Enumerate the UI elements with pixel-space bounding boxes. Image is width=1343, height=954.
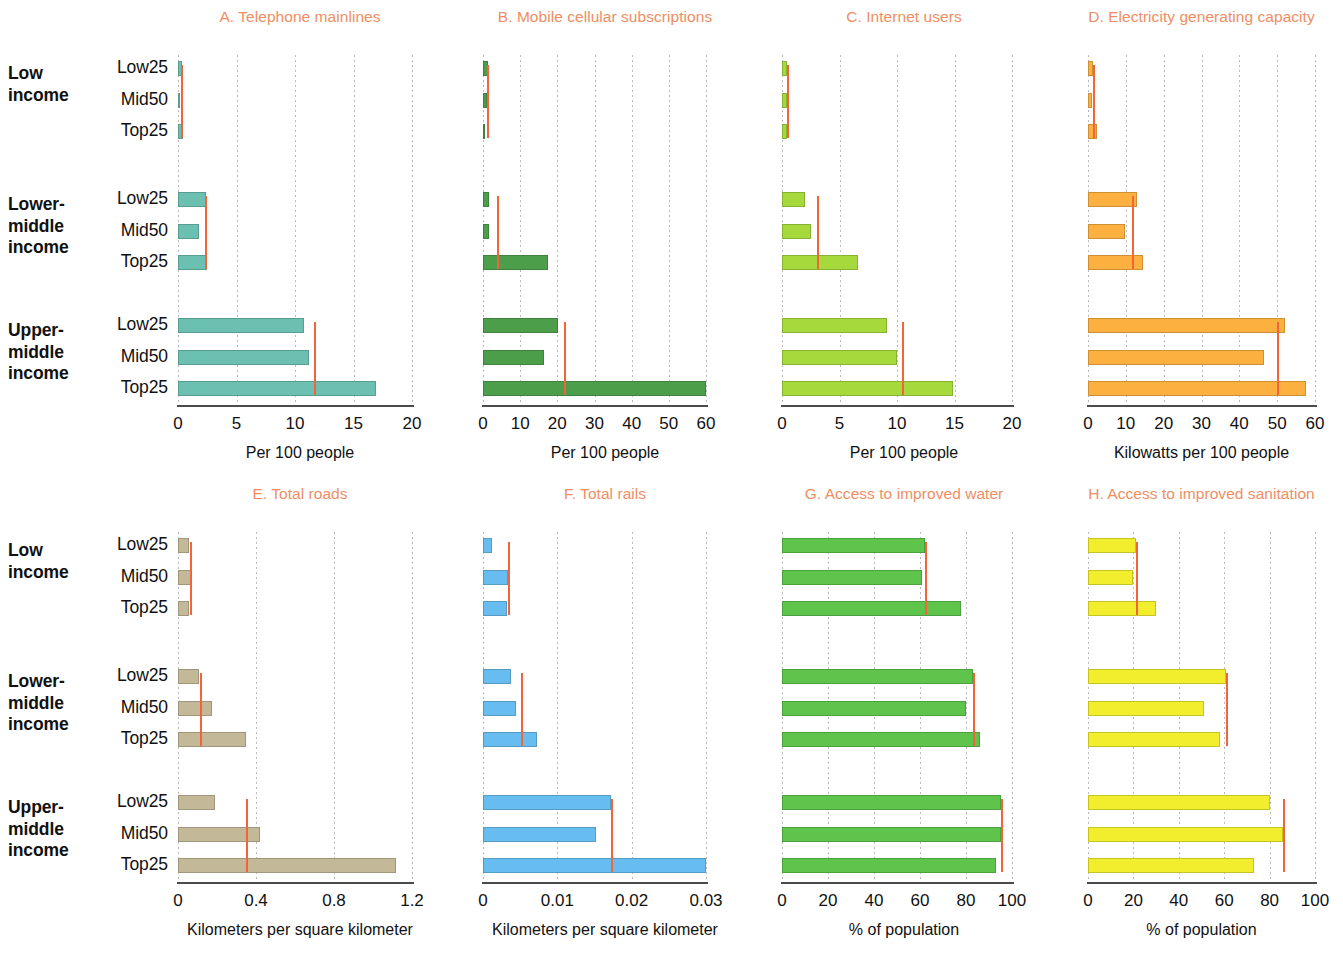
x-tick-1: 0.4 <box>244 891 268 911</box>
bar-e-1-2 <box>178 732 246 747</box>
x-axis-caption-h: % of population <box>1060 921 1343 939</box>
x-axis-caption-a: Per 100 people <box>150 444 450 462</box>
group-label-line: Lower- <box>8 671 108 693</box>
bar-a-2-2 <box>178 381 376 396</box>
bar-f-2-1 <box>483 827 596 842</box>
bar-b-2-2 <box>483 381 706 396</box>
bar-g-2-2 <box>782 858 996 873</box>
infrastructure-indicator-panel-figure: LowincomeLow25Mid50Top25Lower-middleinco… <box>0 0 1343 954</box>
bar-f-0-2 <box>483 601 507 616</box>
gridline-4 <box>1012 55 1013 405</box>
gridline-2 <box>334 532 335 882</box>
group-label-line: income <box>8 363 108 385</box>
reference-line-d-2 <box>1277 322 1279 395</box>
x-tick-1: 20 <box>1124 891 1143 911</box>
bar-h-1-2 <box>1088 732 1220 747</box>
bar-e-0-0 <box>178 538 189 553</box>
panel-g: G. Access to improved water020406080100%… <box>754 477 1054 954</box>
plot-area-h: 020406080100% of population <box>1060 477 1343 954</box>
reference-line-e-0 <box>190 542 192 615</box>
gridline-2 <box>897 55 898 405</box>
gridline-5 <box>1315 532 1316 882</box>
gridline-6 <box>706 55 707 405</box>
bar-a-1-0 <box>178 192 206 207</box>
panel-d: D. Electricity generating capacity010203… <box>1060 0 1343 477</box>
group-label-1: Lower-middleincome <box>8 671 108 736</box>
reference-line-g-1 <box>973 673 975 746</box>
bar-c-1-2 <box>782 255 858 270</box>
gridline-3 <box>955 55 956 405</box>
x-tick-3: 15 <box>945 414 964 434</box>
reference-line-a-0 <box>181 65 183 138</box>
bar-d-1-2 <box>1088 255 1143 270</box>
x-axis-caption-c: Per 100 people <box>754 444 1054 462</box>
group-label-line: middle <box>8 216 108 238</box>
gridline-5 <box>669 55 670 405</box>
x-tick-0: 0 <box>478 891 487 911</box>
reference-line-f-2 <box>611 799 613 872</box>
plot-area-f: 00.010.020.03Kilometers per square kilom… <box>455 477 755 954</box>
x-tick-2: 0.8 <box>322 891 346 911</box>
reference-line-g-0 <box>925 542 927 615</box>
reference-line-d-0 <box>1093 65 1095 138</box>
gridline-5 <box>1012 532 1013 882</box>
group-label-line: Lower- <box>8 194 108 216</box>
bar-e-2-0 <box>178 795 215 810</box>
reference-line-h-2 <box>1283 799 1285 872</box>
reference-line-f-1 <box>521 673 523 746</box>
x-tick-0: 0 <box>173 414 182 434</box>
x-tick-1: 10 <box>1116 414 1135 434</box>
x-tick-2: 10 <box>286 414 305 434</box>
x-tick-1: 10 <box>511 414 530 434</box>
x-axis-line <box>781 882 1014 884</box>
group-label-line: Low <box>8 540 108 562</box>
bar-f-1-1 <box>483 701 516 716</box>
group-label-line: Low <box>8 63 108 85</box>
bar-f-2-2 <box>483 858 706 873</box>
x-tick-3: 60 <box>1215 891 1234 911</box>
group-label-2: Upper-middleincome <box>8 320 108 385</box>
gridline-4 <box>632 55 633 405</box>
group-label-line: middle <box>8 693 108 715</box>
x-tick-1: 20 <box>819 891 838 911</box>
x-axis-line <box>1087 405 1317 407</box>
x-axis-caption-f: Kilometers per square kilometer <box>455 921 755 939</box>
x-tick-1: 5 <box>232 414 241 434</box>
bar-c-2-2 <box>782 381 953 396</box>
bar-a-1-2 <box>178 255 207 270</box>
panel-h: H. Access to improved sanitation02040608… <box>1060 477 1343 954</box>
x-axis-line <box>177 405 414 407</box>
bar-d-0-0 <box>1088 61 1093 76</box>
group-label-line: income <box>8 562 108 584</box>
bar-h-2-0 <box>1088 795 1270 810</box>
bar-f-0-0 <box>483 538 492 553</box>
bar-b-1-1 <box>483 224 489 239</box>
bar-a-2-1 <box>178 350 309 365</box>
group-label-1: Lower-middleincome <box>8 194 108 259</box>
x-axis-caption-g: % of population <box>754 921 1054 939</box>
gridline-2 <box>557 55 558 405</box>
x-tick-0: 0 <box>777 891 786 911</box>
group-label-line: income <box>8 237 108 259</box>
gridline-6 <box>1315 55 1316 405</box>
x-tick-4: 40 <box>1230 414 1249 434</box>
x-tick-0: 0 <box>478 414 487 434</box>
x-tick-4: 80 <box>1260 891 1279 911</box>
bar-g-0-0 <box>782 538 925 553</box>
plot-area-d: 0102030405060Kilowatts per 100 people <box>1060 0 1343 477</box>
bar-h-1-1 <box>1088 701 1204 716</box>
x-tick-3: 60 <box>911 891 930 911</box>
group-label-line: middle <box>8 819 108 841</box>
bar-e-0-2 <box>178 601 189 616</box>
bar-d-2-1 <box>1088 350 1264 365</box>
x-axis-line <box>482 405 708 407</box>
panel-c: C. Internet users05101520Per 100 people <box>754 0 1054 477</box>
reference-line-g-2 <box>1001 799 1003 872</box>
group-label-line: middle <box>8 342 108 364</box>
x-tick-6: 60 <box>1306 414 1325 434</box>
gridline-3 <box>412 532 413 882</box>
bar-h-2-1 <box>1088 827 1283 842</box>
reference-line-e-2 <box>246 799 248 872</box>
x-tick-0: 0 <box>1083 414 1092 434</box>
x-axis-caption-b: Per 100 people <box>455 444 755 462</box>
